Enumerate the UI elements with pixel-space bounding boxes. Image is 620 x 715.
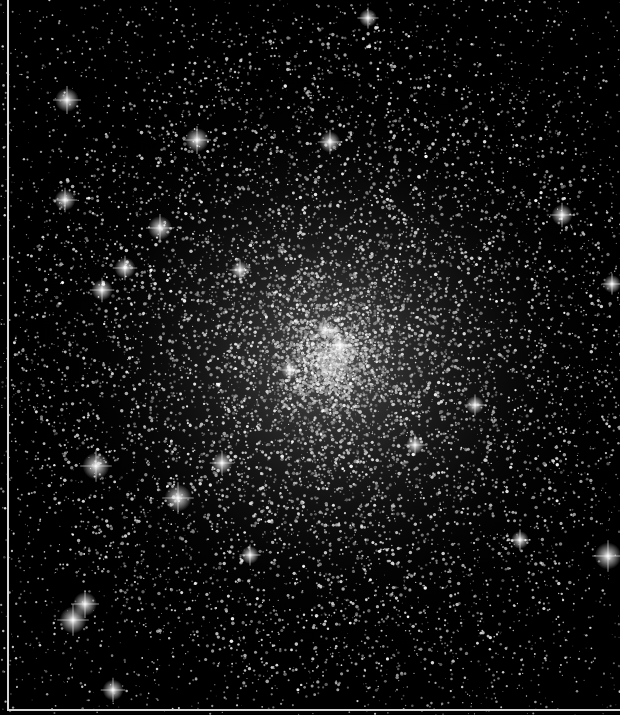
star-field-canvas — [0, 0, 620, 715]
image-border-left — [7, 0, 9, 711]
star-cluster-image — [0, 0, 620, 715]
image-border-bottom — [7, 709, 620, 711]
